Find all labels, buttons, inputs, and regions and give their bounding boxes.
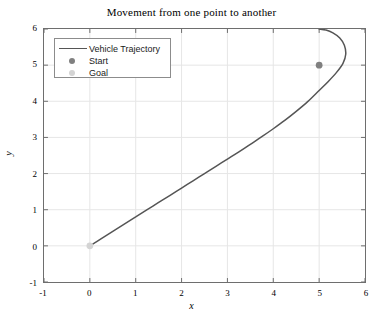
x-tick-label: -1 [39, 288, 47, 298]
y-tick-label: 1 [9, 205, 37, 215]
legend-dot-swatch [55, 55, 89, 67]
y-tick-label: 5 [9, 59, 37, 69]
y-tick-label: 4 [9, 96, 37, 106]
x-axis-label: x [0, 300, 383, 311]
legend-entry[interactable]: Vehicle Trajectory [55, 43, 170, 55]
x-tick-label: 5 [318, 288, 323, 298]
dot-swatch-icon [69, 58, 75, 64]
figure-canvas: Movement from one point to another -1012… [0, 0, 383, 321]
x-tick-label: 3 [225, 288, 230, 298]
x-tick-label: 6 [364, 288, 369, 298]
y-axis-label: y [3, 151, 14, 155]
x-tick-label: 2 [179, 288, 184, 298]
y-tick-label: 3 [9, 132, 37, 142]
legend-label: Goal [89, 67, 108, 79]
marker-start [316, 62, 323, 69]
legend-line-swatch [55, 43, 89, 55]
line-swatch-icon [59, 48, 87, 49]
y-tick-label: 2 [9, 169, 37, 179]
x-tick-label: 4 [271, 288, 276, 298]
legend-label: Vehicle Trajectory [89, 43, 160, 55]
dot-swatch-icon [69, 70, 75, 76]
legend-box: Vehicle TrajectoryStartGoal [54, 38, 171, 78]
chart-title: Movement from one point to another [0, 6, 383, 18]
y-tick-label: -1 [9, 278, 37, 288]
y-tick-label: 0 [9, 242, 37, 252]
legend-entry[interactable]: Start [55, 55, 170, 67]
y-tick-label: 6 [9, 23, 37, 33]
x-tick-label: 0 [87, 288, 92, 298]
legend-dot-swatch [55, 67, 89, 79]
x-tick-label: 1 [133, 288, 138, 298]
legend-entry[interactable]: Goal [55, 67, 170, 79]
legend-label: Start [89, 55, 108, 67]
marker-goal [86, 242, 93, 249]
